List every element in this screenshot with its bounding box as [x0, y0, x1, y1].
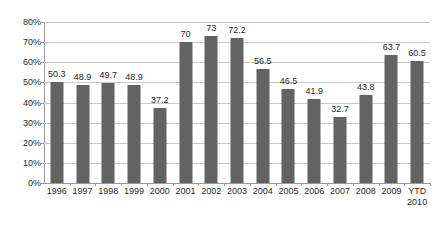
y-axis-tick-label: 0%: [1, 179, 41, 188]
bar-slot: 72.2: [224, 22, 250, 183]
x-axis-tick-label: YTD 2010: [404, 186, 430, 208]
bar-value-label: 43.8: [357, 83, 375, 92]
bar-slot: 50.3: [44, 22, 70, 183]
bar-chart: 0%10%20%30%40%50%60%70%80% 50.348.949.74…: [0, 0, 448, 231]
y-axis-tick-label: 70%: [1, 38, 41, 47]
bar-value-label: 32.7: [331, 105, 349, 114]
x-axis-tick-label: 2002: [198, 186, 224, 197]
y-axis-tick-label: 10%: [1, 159, 41, 168]
x-axis-tick-mark: [198, 183, 199, 186]
y-axis-tick-mark: [41, 82, 44, 83]
x-axis-tick-label: 2001: [173, 186, 199, 197]
bar[interactable]: [359, 95, 372, 183]
bar-value-label: 37.2: [151, 96, 169, 105]
x-axis-tick-label: 2006: [301, 186, 327, 197]
y-axis-tick-label: 20%: [1, 139, 41, 148]
y-axis-tick-label: 30%: [1, 119, 41, 128]
x-axis-tick-label: 1996: [44, 186, 70, 197]
bar-value-label: 49.7: [100, 71, 118, 80]
x-axis-tick-mark: [250, 183, 251, 186]
x-axis-tick-mark: [70, 183, 71, 186]
y-axis-tick-label: 50%: [1, 78, 41, 87]
x-axis-tick-mark: [224, 183, 225, 186]
bar-slot: 49.7: [95, 22, 121, 183]
bar-value-label: 60.5: [408, 49, 426, 58]
bar-slot: 41.9: [301, 22, 327, 183]
bar[interactable]: [153, 108, 166, 183]
x-axis-tick-label: 1998: [95, 186, 121, 197]
bar-value-label: 48.9: [74, 73, 92, 82]
x-axis-tick-mark: [95, 183, 96, 186]
bar-value-label: 56.5: [254, 57, 272, 66]
y-axis-tick-mark: [41, 42, 44, 43]
bar[interactable]: [76, 85, 89, 183]
bar-slot: 48.9: [121, 22, 147, 183]
bar-value-label: 72.2: [228, 26, 246, 35]
y-axis-tick-mark: [41, 103, 44, 104]
bar[interactable]: [230, 38, 243, 183]
x-axis-tick-label: 1999: [121, 186, 147, 197]
bar-slot: 37.2: [147, 22, 173, 183]
x-axis-tick-mark: [353, 183, 354, 186]
x-axis-tick-label: 1997: [70, 186, 96, 197]
gridline: [44, 183, 430, 184]
y-axis-tick-label: 80%: [1, 18, 41, 27]
bar[interactable]: [282, 89, 295, 183]
bar-slot: 56.5: [250, 22, 276, 183]
y-axis-tick-label: 40%: [1, 99, 41, 108]
x-axis-tick-mark: [121, 183, 122, 186]
bar-value-label: 50.3: [48, 70, 66, 79]
x-axis-tick-label: 2007: [327, 186, 353, 197]
bar[interactable]: [179, 42, 192, 183]
x-axis-tick-mark: [301, 183, 302, 186]
bar[interactable]: [205, 36, 218, 183]
bar[interactable]: [385, 55, 398, 183]
bar-slot: 48.9: [70, 22, 96, 183]
bar[interactable]: [102, 83, 115, 183]
y-axis-tick-mark: [41, 143, 44, 144]
y-axis-tick-mark: [41, 183, 44, 184]
bar-slot: 70: [173, 22, 199, 183]
y-axis-tick-mark: [41, 123, 44, 124]
bar-value-label: 63.7: [383, 43, 401, 52]
bar-value-label: 41.9: [305, 87, 323, 96]
x-axis-tick-mark: [147, 183, 148, 186]
x-axis: 1996199719981999200020012002200320042005…: [44, 186, 430, 228]
bar[interactable]: [308, 99, 321, 183]
bar-slot: 73: [198, 22, 224, 183]
bar-value-label: 48.9: [125, 73, 143, 82]
bar-value-label: 73: [206, 24, 216, 33]
x-axis-tick-mark: [276, 183, 277, 186]
x-axis-tick-label: 2008: [353, 186, 379, 197]
x-axis-tick-mark: [379, 183, 380, 186]
bar[interactable]: [50, 82, 63, 183]
bar-slot: 63.7: [379, 22, 405, 183]
bar-slot: 43.8: [353, 22, 379, 183]
bar-value-label: 70: [181, 30, 191, 39]
x-axis-tick-mark: [327, 183, 328, 186]
y-axis-tick-mark: [41, 62, 44, 63]
y-axis-tick-mark: [41, 22, 44, 23]
bar-value-label: 46.5: [280, 77, 298, 86]
y-axis: 0%10%20%30%40%50%60%70%80%: [0, 22, 41, 183]
x-axis-tick-label: 2005: [276, 186, 302, 197]
bar[interactable]: [128, 85, 141, 183]
x-axis-tick-mark: [430, 183, 431, 186]
bar[interactable]: [256, 69, 269, 183]
x-axis-tick-label: 2009: [379, 186, 405, 197]
y-axis-tick-mark: [41, 163, 44, 164]
bar-slot: 60.5: [404, 22, 430, 183]
x-axis-tick-label: 2004: [250, 186, 276, 197]
x-axis-tick-label: 2000: [147, 186, 173, 197]
x-axis-tick-mark: [173, 183, 174, 186]
x-axis-tick-mark: [404, 183, 405, 186]
y-axis-tick-label: 60%: [1, 58, 41, 67]
bar[interactable]: [411, 61, 424, 183]
x-axis-tick-label: 2003: [224, 186, 250, 197]
plot-area: 50.348.949.748.937.2707372.256.546.541.9…: [44, 22, 430, 183]
bar[interactable]: [333, 117, 346, 183]
bar-slot: 46.5: [276, 22, 302, 183]
bar-slot: 32.7: [327, 22, 353, 183]
